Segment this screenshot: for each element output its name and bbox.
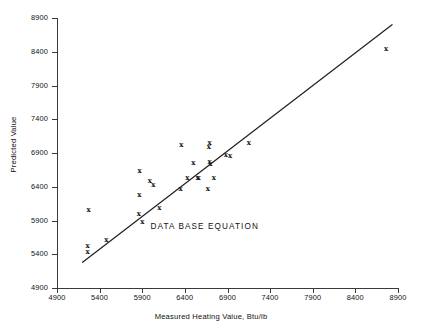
- y-tick-label: 7400: [0, 115, 48, 123]
- y-tick-label: 5400: [0, 250, 48, 258]
- data-point-marker: x: [104, 236, 109, 243]
- data-point-marker: x: [137, 167, 142, 174]
- data-point-marker: x: [86, 206, 91, 213]
- y-tick-mark: [52, 52, 57, 53]
- x-tick-label: 5400: [80, 294, 120, 302]
- data-point-marker: x: [140, 218, 145, 225]
- data-point-marker: x: [384, 45, 389, 52]
- data-point-marker: x: [208, 160, 213, 167]
- y-tick-label: 5900: [0, 217, 48, 225]
- y-tick-label: 7900: [0, 82, 48, 90]
- data-point-marker: x: [179, 141, 184, 148]
- data-point-marker: x: [85, 242, 90, 249]
- x-tick-label: 7400: [250, 294, 290, 302]
- x-axis-title: Measured Heating Value, Btu/lb: [0, 312, 422, 321]
- data-point-marker: x: [178, 185, 183, 192]
- data-point-marker: x: [157, 204, 162, 211]
- data-point-marker: x: [205, 185, 210, 192]
- scatter-chart-figure: Predicted Value Measured Heating Value, …: [0, 0, 422, 329]
- y-tick-label: 6900: [0, 149, 48, 157]
- data-point-marker: x: [191, 159, 196, 166]
- data-point-marker: x: [137, 191, 142, 198]
- y-tick-mark: [52, 254, 57, 255]
- x-tick-label: 6900: [208, 294, 248, 302]
- data-point-marker: x: [211, 174, 216, 181]
- y-tick-mark: [52, 18, 57, 19]
- x-tick-label: 5900: [122, 294, 162, 302]
- y-tick-mark: [52, 86, 57, 87]
- y-tick-label: 4900: [0, 284, 48, 292]
- data-point-marker: x: [151, 181, 156, 188]
- data-point-marker: x: [246, 139, 251, 146]
- data-point-marker: x: [136, 210, 141, 217]
- y-tick-mark: [52, 221, 57, 222]
- x-tick-label: 4900: [37, 294, 77, 302]
- data-point-marker: x: [196, 174, 201, 181]
- x-tick-label: 8900: [378, 294, 418, 302]
- x-tick-label: 8400: [335, 294, 375, 302]
- y-tick-mark: [52, 187, 57, 188]
- y-axis-line: [57, 18, 58, 288]
- y-tick-label: 8900: [0, 14, 48, 22]
- y-tick-mark: [52, 153, 57, 154]
- data-point-marker: x: [207, 139, 212, 146]
- x-tick-label: 7900: [293, 294, 333, 302]
- y-tick-label: 8400: [0, 48, 48, 56]
- x-tick-label: 6400: [165, 294, 205, 302]
- y-tick-label: 6400: [0, 183, 48, 191]
- data-point-marker: x: [185, 174, 190, 181]
- chart-annotation-text: DATA BASE EQUATION: [150, 222, 259, 231]
- y-tick-mark: [52, 119, 57, 120]
- data-point-marker: x: [228, 152, 233, 159]
